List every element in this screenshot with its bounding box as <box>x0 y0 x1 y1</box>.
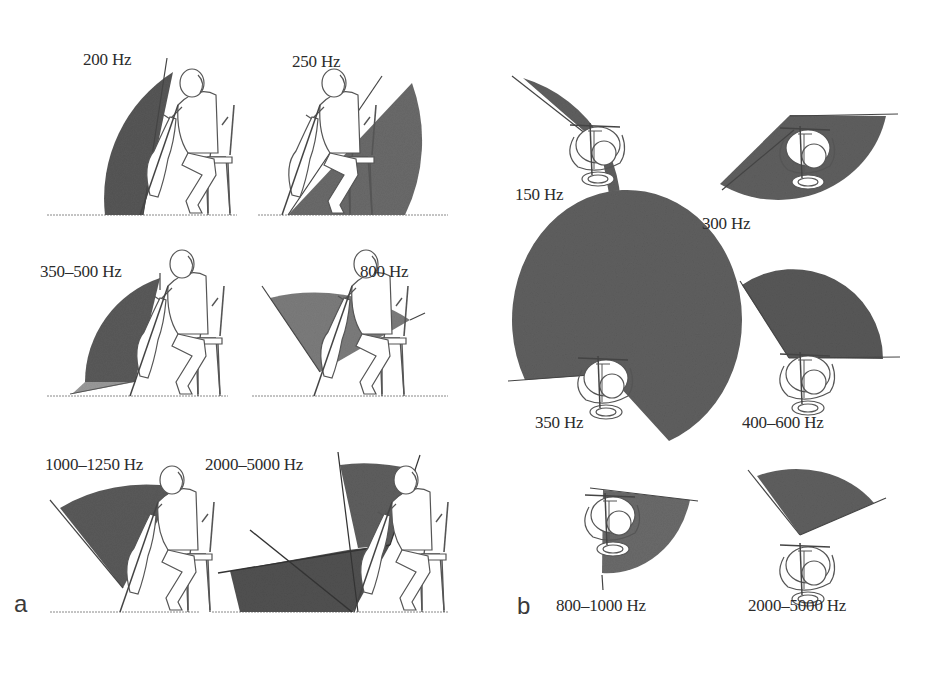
label-2000-5000hz-b: 2000–5000 Hz <box>748 596 846 616</box>
directivity-figure <box>0 0 943 680</box>
sector-2000-5000hz-b <box>757 469 874 535</box>
label-350-500hz: 350–500 Hz <box>40 262 122 282</box>
label-200hz: 200 Hz <box>83 50 131 70</box>
label-350hz: 350 Hz <box>535 413 583 433</box>
panel-letter-b: b <box>517 592 530 620</box>
label-300hz: 300 Hz <box>702 214 750 234</box>
label-400-600hz: 400–600 Hz <box>742 413 824 433</box>
label-800-1000hz: 800–1000 Hz <box>556 596 646 616</box>
panel-letter-a: a <box>14 590 27 618</box>
label-2000-5000hz-a: 2000–5000 Hz <box>205 455 303 475</box>
label-150hz: 150 Hz <box>515 185 563 205</box>
label-1000-1250hz: 1000–1250 Hz <box>45 455 143 475</box>
sector-400-600hz <box>742 269 883 359</box>
sector-2000-5000hz-a <box>230 463 416 612</box>
sector-1000-1250hz <box>60 485 175 588</box>
label-250hz: 250 Hz <box>292 52 340 72</box>
label-800hz: 800 Hz <box>360 262 408 282</box>
